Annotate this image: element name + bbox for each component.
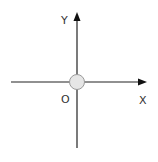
y-axis-arrow-icon	[74, 12, 81, 21]
axes-diagram: Y X O	[0, 0, 158, 162]
y-axis-label: Y	[60, 14, 68, 27]
x-axis-arrow-icon	[138, 79, 147, 86]
x-axis-label: X	[139, 94, 147, 107]
origin-circle	[70, 75, 85, 90]
origin-label: O	[61, 93, 70, 106]
